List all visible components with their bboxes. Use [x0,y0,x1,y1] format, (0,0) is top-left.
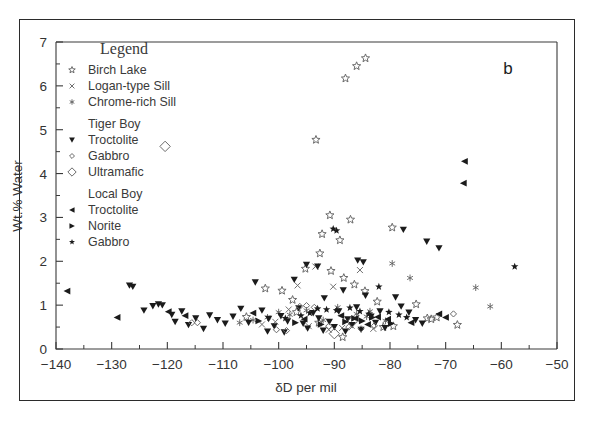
legend-group-header-7: Local Boy [88,187,143,201]
data-point [327,267,335,275]
legend-label-2: Chrome-rich Sill [88,95,176,109]
data-point [398,303,405,309]
data-point [381,325,388,331]
data-point [278,286,286,294]
x-tick-label-8: −60 [490,357,513,372]
legend-marker-10 [69,239,75,245]
data-point [222,321,229,327]
data-point [304,325,311,331]
data-point [376,308,383,314]
data-point [360,259,367,265]
data-point [140,307,147,313]
data-point [419,321,426,327]
data-point [340,274,348,282]
data-point [172,319,179,325]
data-point [64,288,71,295]
legend-group-header-3: Tiger Boy [88,117,141,131]
data-point [461,158,468,165]
legend-label-10: Gabbro [88,235,129,249]
data-point [346,304,353,311]
data-point [165,308,172,315]
data-point [200,326,207,332]
data-point [114,314,121,321]
data-point [350,280,358,288]
data-point [423,239,430,245]
data-point [259,321,265,327]
data-point [370,326,376,332]
data-point [373,297,381,305]
data-point [330,284,336,290]
data-point [318,230,326,238]
legend-label-6: Ultramafic [88,165,144,179]
y-tick-label-5: 5 [39,123,47,138]
data-point [442,314,449,321]
data-point [321,295,328,301]
data-point [375,283,382,290]
data-point [359,318,366,325]
data-point [286,307,292,313]
data-point [237,306,244,312]
legend-label-0: Birch Lake [88,63,147,77]
x-tick-label-1: −130 [96,357,126,372]
y-tick-label-4: 4 [39,167,47,182]
data-point [206,312,213,318]
data-point [435,245,442,251]
data-point [374,314,381,321]
legend-marker-6 [68,168,76,176]
legend-marker-2 [70,99,75,104]
data-point [149,303,156,309]
data-point [361,54,369,62]
data-point [295,282,301,288]
data-point [316,249,324,257]
data-point [450,311,456,317]
legend-label-8: Troctolite [88,203,139,217]
x-tick-label-9: −50 [546,357,569,372]
legend-label-1: Logan-type Sill [88,79,170,93]
data-point [353,62,361,70]
data-point [265,316,272,322]
legend-marker-5 [70,154,75,159]
data-point [292,319,299,326]
data-point [395,311,402,318]
data-point [277,313,284,319]
data-point [354,257,361,263]
data-point [357,267,363,273]
data-point [487,303,493,310]
x-tick-label-0: −140 [41,357,71,372]
figure-panel: −140−130−120−110−100−90−80−70−60−5001234… [0,0,595,421]
data-point [460,180,467,187]
data-point [389,260,395,267]
data-point [288,296,296,304]
data-point [340,287,347,293]
y-tick-label-0: 0 [39,342,47,357]
data-point [178,308,185,314]
x-axis-title: δD per mil [275,380,337,395]
data-point [346,215,354,223]
data-point [242,313,250,321]
legend-marker-4 [69,138,75,143]
x-tick-label-6: −80 [379,357,402,372]
data-point [408,319,415,326]
y-axis-title: Wt.% Water [10,160,25,232]
data-point [388,223,396,231]
x-tick-label-3: −110 [208,357,237,372]
x-tick-label-2: −120 [152,357,182,372]
data-point [323,306,330,313]
data-point [291,277,298,283]
y-tick-label-6: 6 [39,79,47,94]
y-tick-label-1: 1 [39,298,47,313]
data-point [326,211,334,219]
x-tick-label-7: −70 [434,357,457,372]
data-point [341,74,349,82]
data-point [372,320,379,326]
data-point [245,320,252,326]
data-point [392,294,399,300]
panel-label: b [503,59,512,78]
data-point [400,227,407,233]
data-point [473,284,479,291]
legend: LegendBirch LakeLogan-type SillChrome-ri… [68,40,176,249]
series-logan-type-sill [259,264,376,333]
x-tick-label-4: −100 [263,357,293,372]
data-point [312,136,320,144]
x-tick-label-5: −90 [323,357,346,372]
